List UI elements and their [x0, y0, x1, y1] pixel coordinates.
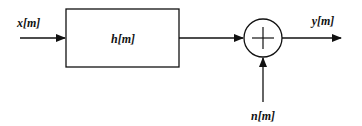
- noise-label: n[m]: [251, 109, 275, 123]
- summing-junction: [244, 19, 282, 57]
- output-label: y[m]: [310, 14, 335, 28]
- block-diagram: x[m] h[m] y[m] n[m]: [0, 0, 362, 126]
- filter-label: h[m]: [111, 32, 135, 46]
- input-label: x[m]: [16, 16, 40, 30]
